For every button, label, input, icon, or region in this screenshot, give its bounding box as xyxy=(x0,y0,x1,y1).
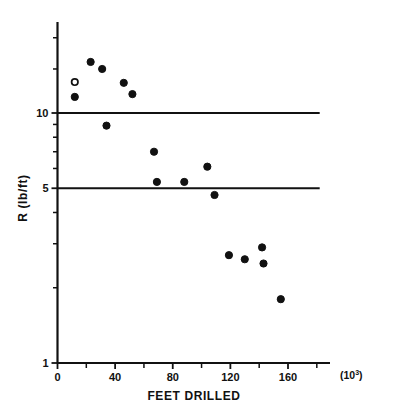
y-axis-title: R (lb/ft) xyxy=(16,174,30,221)
y-tick-label: 5 xyxy=(42,182,48,194)
data-point xyxy=(181,178,188,185)
y-tick-label: 10 xyxy=(36,107,48,119)
data-point xyxy=(71,93,78,100)
data-point xyxy=(150,148,157,155)
y-tick-label: 1 xyxy=(42,357,48,369)
x-axis-tick-labels: 04080120160 xyxy=(54,371,297,383)
data-points xyxy=(71,58,284,302)
data-point xyxy=(241,256,248,263)
data-point xyxy=(258,244,265,251)
data-point xyxy=(103,122,110,129)
data-point xyxy=(129,91,136,98)
data-point xyxy=(120,79,127,86)
x-tick-label: 80 xyxy=(167,371,179,383)
data-point xyxy=(277,296,284,303)
x-axis-multiplier-label: (103) xyxy=(340,369,363,381)
y-axis-tick-labels: 1510 xyxy=(36,107,48,369)
x-tick-label: 0 xyxy=(54,371,60,383)
data-point xyxy=(260,260,267,267)
data-point xyxy=(87,58,94,65)
x-tick-label: 160 xyxy=(279,371,297,383)
data-point xyxy=(225,252,232,259)
scatter-plot: 1510 04080120160 FEET DRILLED R (lb/ft) … xyxy=(0,0,420,419)
data-point xyxy=(211,191,218,198)
x-tick-label: 120 xyxy=(221,371,239,383)
reference-lines xyxy=(58,113,320,188)
data-point-open xyxy=(72,79,78,85)
x-axis-title: FEET DRILLED xyxy=(147,389,240,403)
figure: 1510 04080120160 FEET DRILLED R (lb/ft) … xyxy=(0,0,420,419)
data-point xyxy=(99,65,106,72)
x-tick-label: 40 xyxy=(109,371,121,383)
data-point xyxy=(153,178,160,185)
data-point xyxy=(204,163,211,170)
